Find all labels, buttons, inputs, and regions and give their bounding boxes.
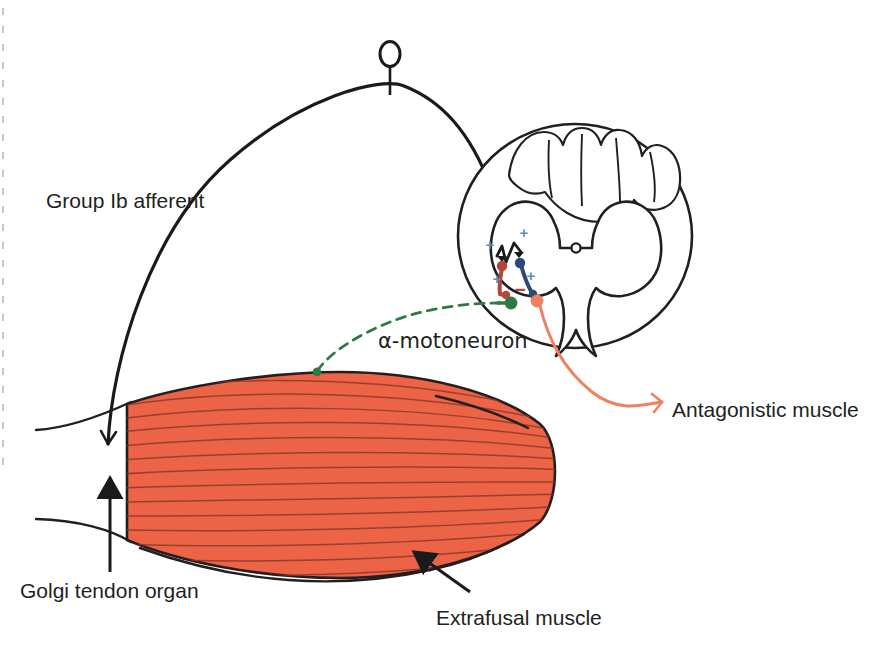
sensory-receptor-soma <box>380 42 400 67</box>
sign-minus-1: − <box>514 279 525 300</box>
tendon-upper <box>36 402 131 430</box>
central-canal <box>571 243 580 252</box>
golgi-tendon-organ-reflex-diagram: + + + + − Group Ib afferent α-motoneuron… <box>0 0 895 655</box>
neuromuscular-junction <box>313 368 322 377</box>
label-golgi-tendon-organ: Golgi tendon organ <box>20 579 199 602</box>
sign-plus-2: + <box>520 224 529 241</box>
sign-plus-3: + <box>527 267 536 284</box>
sign-plus-1: + <box>486 236 495 253</box>
tendon-lower <box>36 519 131 542</box>
label-alpha-motoneuron: α-motoneuron <box>378 329 528 353</box>
diagram-root: + + + + − Group Ib afferent α-motoneuron… <box>0 0 895 655</box>
antagonist-motoneuron-orange <box>531 295 544 308</box>
blue-interneuron-soma <box>515 258 525 268</box>
antagonist-motoneuron-soma <box>531 295 544 308</box>
label-group-ib-afferent: Group Ib afferent <box>46 189 205 212</box>
antagonist-terminal-branch-upper <box>652 394 662 402</box>
label-antagonistic-muscle: Antagonistic muscle <box>672 398 859 421</box>
extrafusal-muscle-belly <box>120 372 570 578</box>
sign-plus-4: + <box>493 270 502 287</box>
label-extrafusal-muscle: Extrafusal muscle <box>436 606 602 629</box>
